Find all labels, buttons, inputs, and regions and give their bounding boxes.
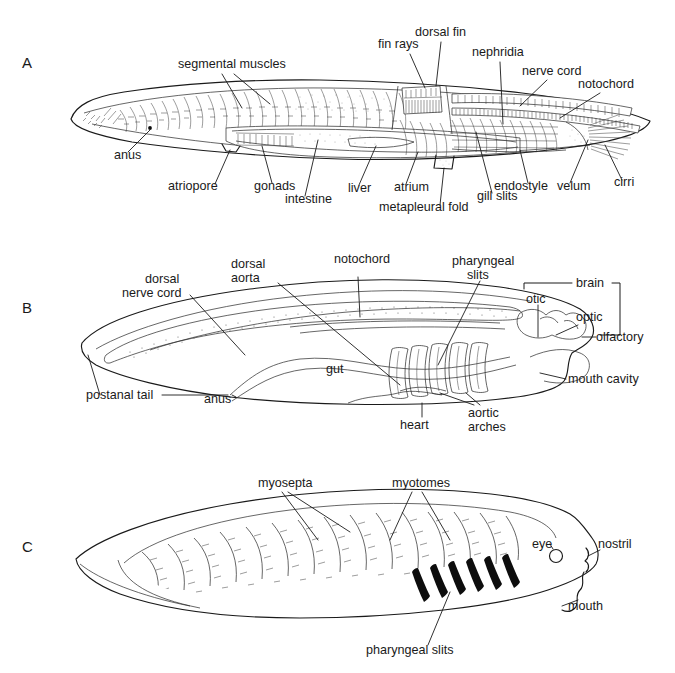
label-postanal-tail: postanal tail (86, 388, 153, 402)
label-pharyngeal-slits-line1: pharyngeal (452, 254, 514, 268)
figure-root: A (0, 0, 675, 673)
label-atriopore: atriopore (168, 179, 218, 193)
label-optic: optic (576, 310, 603, 324)
label-nephridia: nephridia (472, 45, 524, 59)
panel-c-body-outline (76, 489, 598, 618)
label-gut: gut (326, 362, 344, 376)
label-pharyngeal-slits: pharyngeal slits (366, 643, 454, 657)
panel-a: A (0, 0, 675, 240)
label-olfactory: olfactory (596, 330, 644, 344)
label-fin-rays: fin rays (378, 37, 419, 51)
label-myosepta: myosepta (258, 476, 313, 490)
label-dorsal-nerve-cord-line1: dorsal (145, 272, 179, 286)
label-dorsal-nerve-cord-line2: nerve cord (122, 286, 182, 300)
label-anus: anus (114, 148, 141, 162)
label-heart: heart (400, 418, 429, 432)
label-velum: velum (557, 179, 591, 193)
label-aortic-arches-line2: arches (468, 420, 506, 434)
label-notochord: notochord (578, 77, 634, 91)
label-eye: eye (532, 537, 552, 551)
label-notochord: notochord (334, 252, 390, 266)
label-brain: brain (576, 276, 604, 290)
label-pharyngeal-slits-line2: slits (467, 268, 489, 282)
panel-letter-a: A (22, 54, 32, 71)
panel-letter-b: B (22, 299, 32, 316)
label-otic: otic (526, 292, 546, 306)
label-myotomes: myotomes (392, 476, 450, 490)
label-dorsal-aorta-line2: aorta (231, 271, 260, 285)
panel-a-anus-dot (148, 126, 152, 130)
panel-letter-c: C (22, 538, 33, 555)
label-nostril: nostril (598, 537, 632, 551)
label-endostyle: endostyle (494, 179, 548, 193)
panel-c: C (0, 460, 675, 673)
label-gonads: gonads (254, 179, 295, 193)
label-metapleural-fold: metapleural fold (379, 200, 469, 214)
label-atrium: atrium (394, 180, 429, 194)
label-aortic-arches-line1: aortic (468, 406, 499, 420)
label-segmental-muscles: segmental muscles (178, 57, 286, 71)
label-liver: liver (348, 181, 371, 195)
label-mouth-cavity: mouth cavity (568, 372, 639, 386)
label-dorsal-aorta-line1: dorsal (231, 257, 265, 271)
panel-b: B (0, 245, 675, 445)
label-dorsal-fin: dorsal fin (415, 25, 466, 39)
label-cirri: cirri (614, 175, 634, 189)
label-anus: anus (204, 392, 231, 406)
label-nerve-cord: nerve cord (522, 64, 582, 78)
label-intestine: intestine (285, 192, 332, 206)
label-mouth: mouth (568, 599, 603, 613)
